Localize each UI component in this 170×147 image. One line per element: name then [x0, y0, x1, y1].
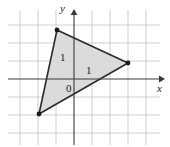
vertex-dot: [55, 28, 60, 33]
vertex-dot: [37, 112, 42, 117]
plot-canvas: [0, 0, 170, 147]
vertex-dot: [126, 61, 131, 66]
x-axis-label: x: [157, 83, 162, 94]
y-axis-label: y: [60, 3, 65, 14]
y-axis-arrowhead: [71, 9, 78, 15]
unit-label-x: 1: [86, 65, 92, 76]
unit-label-y: 1: [60, 52, 66, 63]
coordinate-plane-figure: y x 1 1 0: [0, 0, 170, 147]
origin-label: 0: [66, 83, 72, 94]
